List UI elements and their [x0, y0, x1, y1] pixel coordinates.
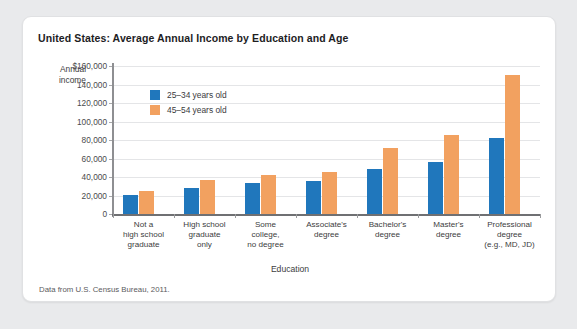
y-axis-tick-label: 0	[102, 209, 107, 219]
x-axis-category-label: Somecollege,no degree	[235, 220, 297, 251]
bar	[489, 138, 504, 214]
bar-group	[113, 66, 174, 214]
bar-group	[357, 66, 418, 214]
x-axis-tick-mark	[113, 214, 114, 218]
bar	[383, 148, 398, 214]
bar	[367, 169, 382, 214]
x-axis-category-label: Associate'sdegree	[296, 220, 358, 240]
legend-item: 45–54 years old	[150, 105, 227, 115]
y-axis-tick-label: 80,000	[82, 135, 107, 145]
x-axis-title: Education	[23, 264, 557, 274]
x-axis-line	[112, 214, 541, 216]
y-axis-tick-label: 60,000	[82, 154, 107, 164]
bar	[505, 75, 520, 214]
bar	[322, 172, 337, 214]
bar	[306, 181, 321, 214]
bars-layer	[113, 66, 540, 214]
bar	[261, 175, 276, 214]
bar-group	[235, 66, 296, 214]
x-axis-category-label: Master'sdegree	[418, 220, 480, 240]
chart-card: United States: Average Annual Income by …	[22, 16, 556, 302]
legend-swatch	[150, 90, 160, 100]
chart-title: United States: Average Annual Income by …	[38, 32, 348, 44]
bar	[200, 180, 215, 214]
x-axis-category-label: Not ahigh schoolgraduate	[113, 220, 175, 251]
y-axis-tick-label: 120,000	[77, 98, 107, 108]
legend-label: 45–54 years old	[167, 105, 227, 115]
bar-group	[418, 66, 479, 214]
bar	[184, 188, 199, 214]
y-axis-tick-label: 20,000	[82, 191, 107, 201]
x-axis-tick-mark	[357, 214, 358, 218]
x-axis-tick-mark	[479, 214, 480, 218]
legend-label: 25–34 years old	[167, 90, 227, 100]
bar	[123, 195, 138, 214]
bar-group	[296, 66, 357, 214]
x-axis-tick-mark	[235, 214, 236, 218]
bar	[245, 183, 260, 214]
legend-swatch	[150, 105, 160, 115]
bar-group	[174, 66, 235, 214]
x-axis-category-label: High schoolgraduateonly	[174, 220, 236, 251]
bar	[444, 135, 459, 214]
y-axis-tick-label: $160,000	[72, 61, 107, 71]
y-axis-tick-label: 100,000	[77, 117, 107, 127]
x-axis-category-label: Bachelor'sdegree	[357, 220, 419, 240]
source-note: Data from U.S. Census Bureau, 2011.	[39, 285, 170, 294]
plot-area: $160,000140,000120,000100,00080,00060,00…	[113, 66, 540, 214]
bar	[139, 191, 154, 214]
chart-legend: 25–34 years old45–54 years old	[150, 90, 227, 120]
x-axis-tick-mark	[296, 214, 297, 218]
legend-item: 25–34 years old	[150, 90, 227, 100]
x-axis-tick-mark	[418, 214, 419, 218]
y-axis-tick-label: 140,000	[77, 80, 107, 90]
y-axis-tick-label: 40,000	[82, 172, 107, 182]
bar-group	[479, 66, 540, 214]
x-axis-tick-mark	[174, 214, 175, 218]
x-axis-tick-mark	[540, 214, 541, 218]
x-axis-category-label: Professionaldegree(e.g., MD, JD)	[479, 220, 541, 251]
bar	[428, 162, 443, 214]
